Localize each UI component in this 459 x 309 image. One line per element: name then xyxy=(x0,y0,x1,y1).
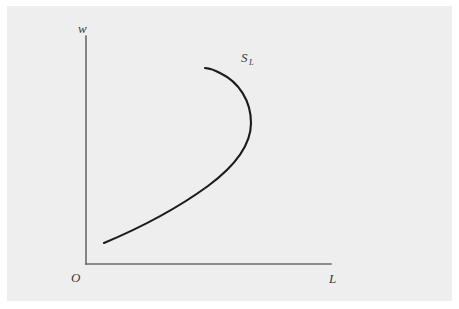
figure-root: ■ ■ ■ ■ ■ ■ ■ ■ w L O S L xyxy=(0,0,459,309)
plot-canvas: w L O S L xyxy=(7,6,452,301)
curve-label-main: S xyxy=(241,50,248,65)
curve-label-subscript: L xyxy=(248,57,254,67)
x-axis-label: L xyxy=(328,271,336,286)
scanned-page-area: w L O S L xyxy=(7,6,452,301)
curve-label-group: S L xyxy=(241,50,254,67)
origin-label: O xyxy=(71,270,81,285)
y-axis-label: w xyxy=(78,21,87,36)
labour-supply-curve xyxy=(104,68,251,243)
